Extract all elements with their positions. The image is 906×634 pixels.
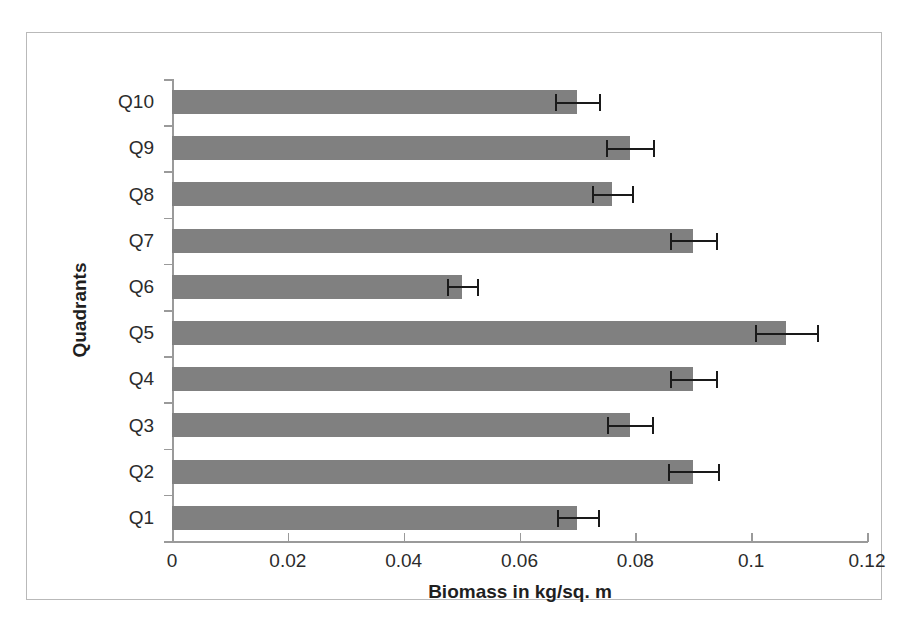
plot-area [172, 79, 867, 541]
y-axis-tick [164, 264, 172, 266]
bar-q1 [172, 506, 577, 530]
y-axis-tick [164, 218, 172, 220]
bar-row [172, 125, 867, 171]
bar-q6 [172, 275, 462, 299]
error-bar-cap-lower [607, 417, 609, 434]
y-axis-tick [164, 495, 172, 497]
bar-q5 [172, 321, 786, 345]
chart-frame: Quadrants Q10Q9Q8Q7Q6Q5Q4Q3Q2Q1 00.020.0… [26, 32, 882, 600]
error-bar-line [607, 425, 652, 427]
error-bar-line [670, 240, 716, 242]
x-axis-tick [867, 533, 869, 542]
error-bar-cap-upper [632, 186, 634, 203]
bar-row [172, 264, 867, 310]
x-axis-tick [751, 533, 753, 542]
bar-q7 [172, 229, 693, 253]
error-bar-cap-upper [477, 279, 479, 296]
y-tick-label-q1: Q1 [94, 507, 154, 529]
x-tick-label-5: 0.1 [706, 550, 796, 572]
x-axis-tick [635, 533, 637, 542]
error-bar-cap-upper [716, 371, 718, 388]
x-axis-tick [404, 533, 406, 542]
error-bar-line [755, 333, 816, 335]
error-bar-cap-lower [592, 186, 594, 203]
x-tick-label-0: 0 [127, 550, 217, 572]
bar-row [172, 171, 867, 217]
error-bar-cap-upper [716, 233, 718, 250]
bar-row [172, 79, 867, 125]
bar-row [172, 310, 867, 356]
y-tick-label-q3: Q3 [94, 415, 154, 437]
error-bar-line [592, 194, 633, 196]
y-axis-tick [164, 402, 172, 404]
y-tick-label-q4: Q4 [94, 368, 154, 390]
error-bar-line [447, 286, 477, 288]
y-tick-label-q9: Q9 [94, 137, 154, 159]
y-tick-label-q6: Q6 [94, 276, 154, 298]
error-bar-cap-upper [652, 417, 654, 434]
error-bar-cap-upper [817, 325, 819, 342]
y-tick-label-q8: Q8 [94, 184, 154, 206]
error-bar-cap-lower [555, 94, 557, 111]
x-axis-tick [288, 533, 290, 542]
bar-row [172, 402, 867, 448]
error-bar-line [670, 379, 716, 381]
bar-q9 [172, 136, 630, 160]
error-bar-line [557, 517, 598, 519]
error-bar-cap-lower [447, 279, 449, 296]
chart-figure: Quadrants Q10Q9Q8Q7Q6Q5Q4Q3Q2Q1 00.020.0… [0, 0, 906, 634]
error-bar-cap-lower [670, 233, 672, 250]
bar-q3 [172, 413, 630, 437]
error-bar-cap-upper [598, 510, 600, 527]
y-axis-tick [164, 356, 172, 358]
y-tick-label-q5: Q5 [94, 322, 154, 344]
y-axis-title-text: Quadrants [69, 262, 91, 357]
y-axis-tick [164, 171, 172, 173]
y-axis-tick [164, 310, 172, 312]
error-bar-cap-upper [599, 94, 601, 111]
error-bar-cap-lower [557, 510, 559, 527]
x-tick-label-2: 0.04 [359, 550, 449, 572]
error-bar-cap-lower [755, 325, 757, 342]
x-axis-tick [520, 533, 522, 542]
x-axis-tick [172, 533, 174, 542]
y-tick-label-q10: Q10 [94, 91, 154, 113]
bar-q8 [172, 182, 612, 206]
bar-row [172, 449, 867, 495]
y-axis-tick [164, 449, 172, 451]
x-axis-title: Biomass in kg/sq. m [172, 581, 868, 603]
error-bar-cap-lower [668, 464, 670, 481]
x-tick-label-4: 0.08 [590, 550, 680, 572]
y-tick-label-q2: Q2 [94, 461, 154, 483]
bar-row [172, 356, 867, 402]
bar-row [172, 218, 867, 264]
error-bar-cap-lower [670, 371, 672, 388]
error-bar-cap-upper [718, 464, 720, 481]
x-tick-label-6: 0.12 [822, 550, 906, 572]
error-bar-line [555, 102, 599, 104]
y-axis-title: Quadrants [65, 79, 95, 541]
bar-q10 [172, 90, 577, 114]
error-bar-cap-lower [606, 140, 608, 157]
error-bar-line [668, 471, 718, 473]
y-axis-tick [164, 541, 172, 543]
x-tick-label-3: 0.06 [475, 550, 565, 572]
y-tick-label-q7: Q7 [94, 230, 154, 252]
bar-q4 [172, 367, 693, 391]
error-bar-cap-upper [653, 140, 655, 157]
y-axis-tick [164, 125, 172, 127]
bar-q2 [172, 460, 693, 484]
x-tick-label-1: 0.02 [243, 550, 333, 572]
y-axis-tick [164, 79, 172, 81]
error-bar-line [606, 148, 652, 150]
